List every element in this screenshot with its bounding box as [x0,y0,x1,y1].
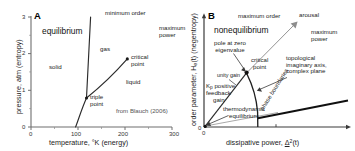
critical-point-marker-a [126,57,129,60]
panel-b-annotation-maximum-order: maximum order [238,13,280,20]
triple-point-marker [85,96,88,99]
panel-b-letter: B [208,11,215,21]
panel-a-annotation-maximum-power: maximum power [159,25,185,38]
panel-a-ytick-3: 3 [22,14,25,20]
panel-b-xaxis-title-pre: dissipative power, [226,138,285,147]
panel-b-annotation-arousal: arousal [299,12,319,19]
panel-a-annotation-critical-point: critical point [131,54,148,67]
panel-a-annotation-minimum-order: minimum order [105,10,146,17]
panel-a-xtick-0: 0 [29,131,32,137]
panel-b-topological-line3: complex plane [286,67,325,74]
panel-b-yaxis-symbol: H [189,66,198,71]
panel-a-region-solid: solid [49,64,62,71]
panel-a-source-note: from Blauch (2006) [116,108,168,115]
panel-b-annotation-unity-gain: unity gain [217,73,240,79]
panel-b-annotation-critical-point: critical point [251,57,268,70]
panel-a-annotation-triple-point: triple point [90,94,103,107]
panel-a-xtick-200: 200 [118,131,128,137]
panel-a-xaxis-title-pre: temperature, [49,138,92,147]
panel-a-region-equilibrium: equilibrium [42,27,83,36]
panel-a-region-gas: gas [100,46,110,53]
figure-canvas: A equilibrium solid gas liquid minimum o… [0,0,355,151]
panel-b-xaxis-title: dissipative power, Δ2(t) [226,139,299,147]
panel-b-maxpower-line2: power [311,35,328,42]
figure-vector-layer [0,0,355,151]
panel-a-letter: A [34,11,41,21]
panel-b-yaxis-title-post: (t) (negentropy) [189,13,198,63]
panel-b-critical-line2: point [253,63,266,70]
panel-b-yaxis-title-pre: order parameter, [189,71,198,126]
panel-a-xaxis-title: temperature, °K (energy) [49,139,128,147]
panel-b-kp-line1-post: positive [213,82,235,89]
panel-b-region-nonequilibrium: nonequilibrium [214,26,268,35]
panel-b-pole-line2: eigenvalue [215,46,244,53]
panel-a-yaxis-title: pressure, atm (entropy) [15,39,23,114]
panel-a-maxpower-line2: power [159,31,176,38]
panel-b-annotation-kp-feedback-gain: Kp positive feedback gain [206,83,235,103]
panel-a-ytick-0: 0 [22,124,25,130]
panel-a-xaxis-title-unit: °K (energy) [92,138,128,147]
panel-a-region-liquid: liquid [126,79,140,86]
panel-b-kp-line3: gain [213,97,225,104]
panel-a-xtick-100: 100 [71,131,81,137]
panel-b-yaxis-subscript: e [192,63,198,66]
panel-a-triple-line2: point [90,100,103,107]
panel-b-annotation-maximum-power: maximum power [311,29,337,42]
panel-b-ytick-0: 0 [198,125,201,131]
panel-b-thermo-line2: equilibrium [229,112,258,119]
panel-b-xaxis-title-post: (t) [292,138,299,147]
panel-b-annotation-topological-axis: topological imaginary axis, complex plan… [286,55,327,75]
panel-a-xtick-300: 300 [169,131,179,137]
panel-b-yaxis-title: order parameter, He(t) (negentropy) [190,13,198,126]
panel-a-critical-line2: point [131,60,144,67]
panel-b-xtick-0: 0 [202,130,205,136]
panel-b-kp-line1: Kp positive [206,82,235,89]
panel-b-annotation-pole-zero-eigenvalue: pole at zero eigenvalue [214,40,246,53]
